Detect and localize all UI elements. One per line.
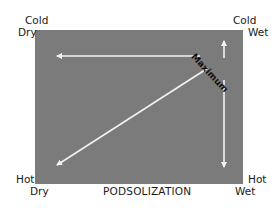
corner-label-hot-dry-top: Hot xyxy=(16,174,34,185)
diagram-caption: PODSOLIZATION xyxy=(103,186,191,197)
corner-label-hot-dry-bottom: Dry xyxy=(30,186,49,197)
corner-label-hot-wet-top: Hot xyxy=(248,174,266,185)
corner-label-cold-wet-top: Cold xyxy=(233,15,256,26)
corner-label-hot-wet-bottom: Wet xyxy=(235,186,255,197)
arrows-layer xyxy=(0,0,280,211)
arrow-to-hot-dry xyxy=(57,68,208,165)
podsolization-diagram: Maximum Cold Dry Cold Wet Hot Dry Hot We… xyxy=(0,0,280,211)
corner-label-cold-dry-bottom: Dry xyxy=(18,27,37,38)
corner-label-cold-wet-bottom: Wet xyxy=(248,27,268,38)
corner-label-cold-dry-top: Cold xyxy=(25,15,48,26)
